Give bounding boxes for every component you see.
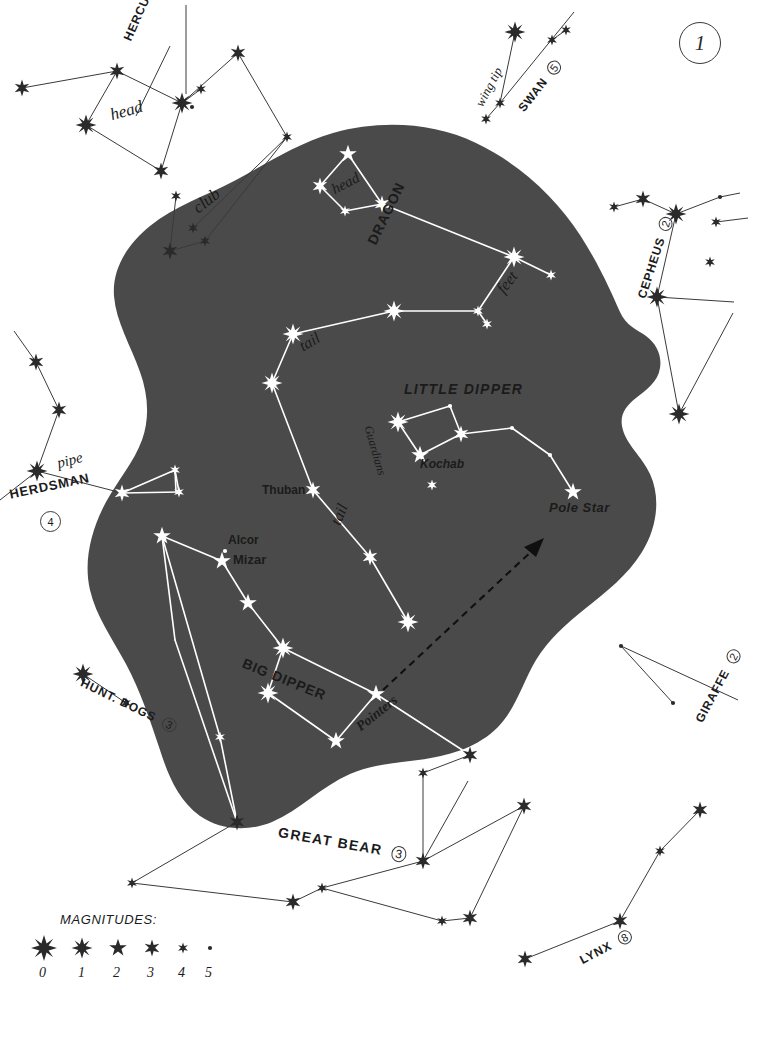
star-chart-canvas (0, 0, 765, 1037)
magnitude-0-label: 0 (39, 965, 46, 981)
great-bear-ref-number: 3 (390, 845, 407, 863)
magnitude-symbols-row (28, 931, 228, 965)
magnitude-2-label: 2 (113, 965, 120, 981)
magnitudes-legend-title: MAGNITUDES: (60, 912, 228, 927)
label-little-dipper: LITTLE DIPPER (404, 381, 523, 397)
label-thuban: Thuban (262, 483, 305, 497)
star-chart-page: 1 HERCULES 5 head club SWAN 5 wing tip C… (0, 0, 765, 1037)
magnitude-4-label: 4 (178, 965, 185, 981)
label-pole-star: Pole Star (549, 500, 610, 515)
label-alcor: Alcor (228, 533, 259, 547)
magnitude-3-label: 3 (147, 965, 154, 981)
magnitude-numbers-row: 0 1 2 3 4 5 (28, 965, 228, 985)
page-number-badge: 1 (679, 22, 721, 64)
magnitude-5-label: 5 (205, 965, 212, 981)
herdsman-ref-badge: 4 (40, 511, 61, 532)
magnitudes-legend: MAGNITUDES: 0 1 2 3 4 5 (28, 912, 228, 985)
label-mizar: Mizar (233, 552, 266, 567)
magnitude-1-label: 1 (78, 965, 85, 981)
page-number: 1 (695, 31, 706, 56)
label-kochab: Kochab (420, 457, 464, 471)
cepheus-ref-number: 2 (657, 215, 675, 233)
herdsman-ref-number: 4 (47, 516, 53, 528)
